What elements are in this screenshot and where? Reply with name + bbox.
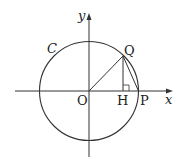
point-q-label: Q [124,43,135,58]
y-axis-arrow-icon [87,13,92,20]
segment-oq [89,56,123,91]
unit-circle-diagram: y x C O Q H P [0,0,182,167]
x-axis-label: x [165,92,173,107]
segment-qp [123,56,139,91]
right-angle-mark [123,85,129,91]
point-h-label: H [117,93,128,108]
point-p-label: P [140,93,149,108]
origin-label: O [77,93,88,108]
y-axis-label: y [77,8,86,23]
circle-label: C [47,41,57,56]
